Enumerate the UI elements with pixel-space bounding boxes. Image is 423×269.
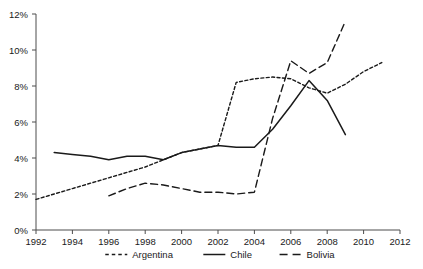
chart-canvas: 0%2%4%6%8%10%12% 19921994199619982000200… [0, 0, 423, 269]
x-tick-label: 1996 [98, 236, 119, 247]
series-line-chile [54, 81, 345, 160]
legend-label-argentina: Argentina [132, 249, 173, 260]
y-axis-ticks: 0%2%4%6%8%10%12% [9, 9, 36, 236]
x-tick-label: 2012 [389, 236, 410, 247]
y-tick-label: 12% [9, 9, 29, 20]
x-tick-label: 1998 [135, 236, 156, 247]
legend-label-chile: Chile [230, 249, 252, 260]
y-tick-label: 0% [14, 225, 28, 236]
line-chart: 0%2%4%6%8%10%12% 19921994199619982000200… [0, 0, 423, 269]
x-tick-label: 2002 [207, 236, 228, 247]
x-tick-label: 2004 [244, 236, 265, 247]
y-tick-label: 6% [14, 117, 28, 128]
x-tick-label: 1994 [62, 236, 83, 247]
x-tick-label: 2008 [317, 236, 338, 247]
y-tick-label: 2% [14, 189, 28, 200]
series-line-argentina [36, 63, 382, 200]
x-tick-label: 2010 [353, 236, 374, 247]
chart-legend: ArgentinaChileBolivia [105, 249, 335, 260]
x-tick-label: 1992 [25, 236, 46, 247]
legend-label-bolivia: Bolivia [307, 249, 336, 260]
data-series-group [36, 21, 382, 199]
y-tick-label: 10% [9, 45, 29, 56]
x-tick-label: 2000 [171, 236, 192, 247]
x-tick-label: 2006 [280, 236, 301, 247]
y-tick-label: 4% [14, 153, 28, 164]
y-tick-label: 8% [14, 81, 28, 92]
x-axis-ticks: 1992199419961998200020022004200620082010… [25, 230, 410, 247]
series-line-bolivia [109, 21, 346, 196]
